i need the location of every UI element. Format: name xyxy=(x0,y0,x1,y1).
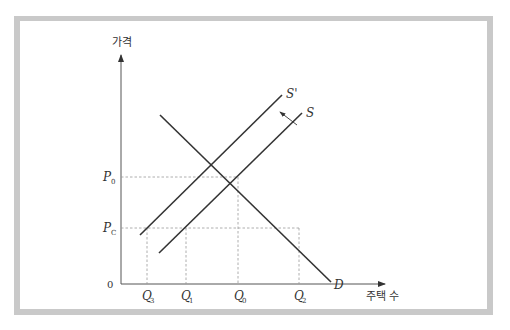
quantity-label-q1: Q 1 xyxy=(181,289,193,305)
supply-label: S xyxy=(306,106,314,120)
origin-label: 0 xyxy=(107,279,113,290)
price-label-p0: P 0 xyxy=(102,170,115,186)
svg-text:1: 1 xyxy=(189,297,193,305)
svg-text:0: 0 xyxy=(111,178,115,186)
svg-text:2: 2 xyxy=(302,297,306,305)
demand-label: D xyxy=(333,278,344,292)
svg-text:0: 0 xyxy=(242,297,246,305)
shift-arrow-icon xyxy=(280,112,297,125)
quantity-label-q0: Q 0 xyxy=(234,289,246,305)
supply-shifted-label: S' xyxy=(286,87,298,101)
x-axis-label: 주택 수 xyxy=(366,290,400,303)
quantity-label-q2: Q 2 xyxy=(294,289,306,305)
price-label-pc: P C xyxy=(102,221,116,237)
svg-text:3: 3 xyxy=(150,297,154,305)
guide-lines xyxy=(121,177,299,284)
supply-demand-diagram: 가격 주택 수 0 P 0 P C Q 3 Q 1 Q 0 Q 2 S' S D xyxy=(0,0,510,330)
svg-text:C: C xyxy=(111,229,116,237)
y-axis-label: 가격 xyxy=(112,36,132,49)
quantity-label-q3: Q 3 xyxy=(142,289,154,305)
